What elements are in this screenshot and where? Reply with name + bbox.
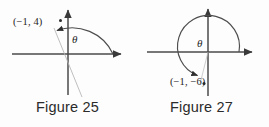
figure-caption-27: Figure 27: [134, 99, 269, 115]
angle-theta-label-27: θ: [197, 37, 202, 49]
angle-arc-25: [57, 28, 113, 54]
figure-panel-25: (−1, 4) θ Figure 25: [0, 0, 135, 127]
point-coordinate-label-27: (−1, −6): [170, 76, 205, 87]
figure-panel-27: (−1, −6) θ Figure 27: [134, 0, 269, 127]
coordinate-diagram-25: [0, 0, 135, 100]
point-coordinate-label-25: (−1, 4): [13, 16, 42, 27]
figure-caption-25: Figure 25: [0, 99, 135, 115]
angle-theta-label-25: θ: [72, 33, 77, 45]
plotted-point-25: [59, 19, 62, 22]
